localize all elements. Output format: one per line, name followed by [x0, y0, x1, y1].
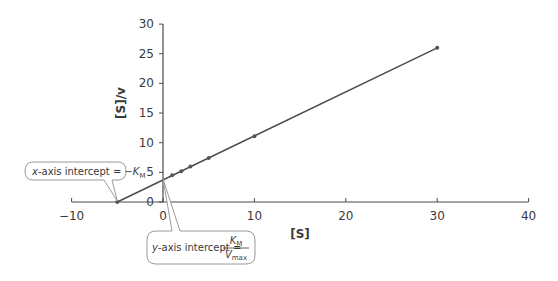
y-tick-label: 5 — [146, 165, 154, 179]
x-tick-label: 10 — [247, 209, 262, 223]
y-axis-label: [S]/v — [114, 87, 128, 119]
x-tick-label: 20 — [338, 209, 353, 223]
x-tick-label: 30 — [430, 209, 445, 223]
data-point — [170, 173, 174, 177]
data-point — [188, 164, 192, 168]
chart-canvas: −10010203040051015202530 x-axis intercep… — [0, 0, 558, 281]
x-tick-label: −10 — [59, 209, 84, 223]
y-tick-label: 30 — [139, 17, 154, 31]
data-point — [179, 169, 183, 173]
hanes-woolf-plot: −10010203040051015202530 x-axis intercep… — [0, 0, 558, 281]
y-tick-label: 0 — [146, 195, 154, 209]
x-axis-label: [S] — [290, 227, 310, 241]
data-point — [252, 134, 256, 138]
x-tick-label: 40 — [521, 209, 536, 223]
x-tick-label: 0 — [159, 209, 167, 223]
y-tick-label: 25 — [139, 47, 154, 61]
data-point — [435, 46, 439, 50]
y-tick-label: 10 — [139, 136, 154, 150]
y-tick-label: 20 — [139, 76, 154, 90]
x-intercept-callout: x-axis intercept = −KM — [25, 162, 145, 201]
data-point — [207, 156, 211, 160]
y-tick-label: 15 — [139, 106, 154, 120]
fit-line — [117, 48, 437, 202]
axes: −10010203040051015202530 — [59, 17, 536, 223]
